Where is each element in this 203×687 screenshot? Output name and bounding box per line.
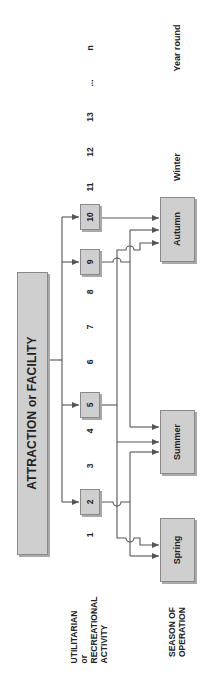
activity-label-5: 5 [85, 403, 95, 408]
activity-label-9: 9 [85, 260, 95, 265]
activity-label-4: 4 [85, 429, 95, 434]
activity-row-label-line: or [79, 597, 89, 664]
attraction-facility-title: ATTRACTION or FACILITY [25, 336, 39, 490]
activity-label-ellipsis: ... [85, 79, 95, 86]
season-label-year-round: Year round [172, 24, 182, 71]
activity-label-3: 3 [85, 464, 95, 469]
activity-label-10: 10 [85, 212, 95, 221]
activity-row-label-line: UTILITARIAN [69, 597, 79, 664]
activity-label-13: 13 [85, 112, 95, 121]
activity-label-7: 7 [85, 325, 95, 330]
activity-row-label: UTILITARIAN or RECREATIONAL ACTIVITY [69, 597, 109, 664]
season-row-label-line: OPERATION [177, 607, 187, 657]
season-label-spring: Spring [172, 536, 182, 565]
activity-row-label-line: RECREATIONAL [89, 597, 99, 664]
season-row-label-line: SEASON OF [167, 607, 177, 657]
activity-label-12: 12 [85, 147, 95, 156]
activity-label-11: 11 [85, 183, 95, 192]
activity-label-8: 8 [85, 290, 95, 295]
season-label-summer: Summer [172, 424, 182, 460]
season-row-label: SEASON OF OPERATION [167, 607, 187, 657]
activity-label-6: 6 [85, 360, 95, 365]
activity-label-n: n [85, 45, 95, 50]
activity-label-2: 2 [85, 500, 95, 505]
activity-row-label-line: ACTIVITY [99, 597, 109, 664]
activity-label-1: 1 [85, 533, 95, 538]
season-label-autumn: Autumn [172, 212, 182, 246]
season-label-winter: Winter [172, 153, 182, 181]
